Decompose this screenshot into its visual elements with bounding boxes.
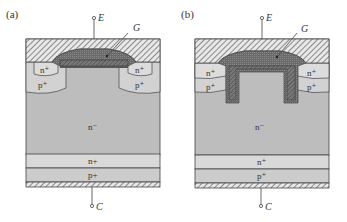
panel-b-label-left-n-plus: n⁺	[206, 68, 216, 78]
panel-b-collector-label: C	[265, 201, 272, 212]
panel-b-label-right-p-plus: p⁺	[307, 82, 317, 92]
panel-a-emitter-label: E	[97, 12, 104, 23]
panel-b-label-drift: n⁻	[255, 122, 265, 132]
panel-b-emitter-terminal-icon	[260, 16, 263, 19]
igbt-cross-section-figure: (a) n⁺ p⁺ n⁺ p⁺ n⁻ n+ p+ E G	[0, 0, 347, 222]
panel-a-label-left-n-plus: n⁺	[40, 65, 50, 75]
panel-a-collector-terminal-icon	[90, 204, 93, 207]
panel-b-label-buffer: n⁺	[257, 157, 267, 167]
panel-b-label-right-n-plus: n⁺	[307, 68, 317, 78]
panel-a-collector-label: C	[96, 201, 103, 212]
panel-a-gate-dielectric	[60, 66, 128, 68]
panel-b-label-collector-layer: p⁺	[257, 171, 267, 181]
panel-b: (b) n⁺ p⁺ n⁺ p⁺ n⁻ n⁺ p⁺ E G	[181, 8, 329, 212]
panel-a: (a) n⁺ p⁺ n⁺ p⁺ n⁻ n+ p+ E G	[6, 8, 160, 212]
panel-b-label: (b)	[181, 8, 194, 21]
panel-a-label-drift: n⁻	[88, 122, 98, 132]
panel-a-gate-poly	[60, 60, 128, 66]
panel-a-label: (a)	[6, 8, 19, 21]
panel-a-gate-label: G	[133, 22, 140, 33]
panel-a-emitter-terminal-icon	[92, 16, 95, 19]
panel-a-label-right-n-plus: n⁺	[135, 65, 145, 75]
panel-b-collector-terminal-icon	[259, 204, 262, 207]
panel-a-label-collector-layer: p+	[88, 170, 98, 180]
panel-b-collector-metal	[195, 183, 329, 188]
panel-b-label-left-p-plus: p⁺	[206, 82, 216, 92]
panel-a-collector-metal	[26, 182, 160, 187]
panel-b-gate-label: G	[301, 23, 308, 34]
panel-a-gate-contact-dot-icon	[106, 55, 108, 57]
panel-b-gate-contact-dot-icon	[276, 56, 278, 58]
panel-a-label-left-p-plus: p⁺	[38, 80, 48, 90]
panel-a-label-buffer: n+	[88, 156, 98, 166]
panel-a-label-right-p-plus: p⁺	[135, 80, 145, 90]
panel-b-emitter-label: E	[265, 12, 272, 23]
